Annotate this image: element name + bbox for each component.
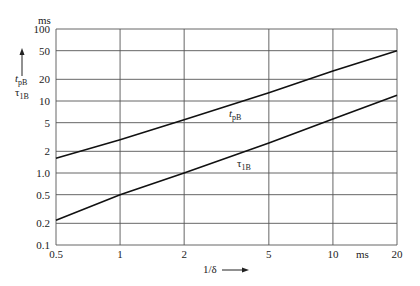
tick-labels: 0.10.20.51.0251020501000.51251020 — [34, 23, 404, 260]
y-tick-label: 1.0 — [36, 167, 50, 179]
x-tick-label: 2 — [181, 248, 187, 260]
series-line — [56, 95, 397, 220]
y-tick-label: 20 — [39, 73, 51, 85]
y-unit-label: ms — [38, 14, 51, 26]
arrowhead-icon — [242, 268, 249, 273]
y-tick-label: 5 — [45, 117, 51, 129]
x-axis-label-text: 1/δ — [203, 263, 217, 275]
x-axis-label: 1/δ — [203, 263, 249, 275]
x-tick-label: 1 — [117, 248, 123, 260]
y-tick-label: 0.5 — [36, 189, 50, 201]
x-unit-label: ms — [356, 248, 369, 260]
arrowhead-icon — [20, 48, 25, 55]
series-label-tau1b: τ1B — [237, 157, 251, 172]
chart: 0.10.20.51.0251020501000.51251020 ms ms … — [0, 0, 420, 286]
series-line — [56, 51, 397, 159]
y-axis-label: tpB τ1B — [15, 48, 29, 101]
grid — [56, 29, 397, 245]
y-tick-label: 50 — [39, 45, 51, 57]
y-tick-label: 10 — [39, 95, 51, 107]
svg-text:τ1B: τ1B — [15, 86, 29, 101]
y-label-tpb-sub: pB — [18, 78, 27, 87]
y-tick-label: 0.2 — [36, 217, 50, 229]
y-tick-label: 2 — [45, 145, 51, 157]
y-tick-label: 0.1 — [36, 239, 50, 251]
series-label-tpb: tpB — [229, 107, 241, 122]
svg-text:tpB: tpB — [15, 72, 27, 87]
x-tick-label: 20 — [392, 248, 404, 260]
x-tick-label: 10 — [327, 248, 339, 260]
x-tick-label: 0.5 — [49, 248, 63, 260]
x-tick-label: 5 — [266, 248, 272, 260]
y-label-tau-sub: 1B — [19, 92, 28, 101]
